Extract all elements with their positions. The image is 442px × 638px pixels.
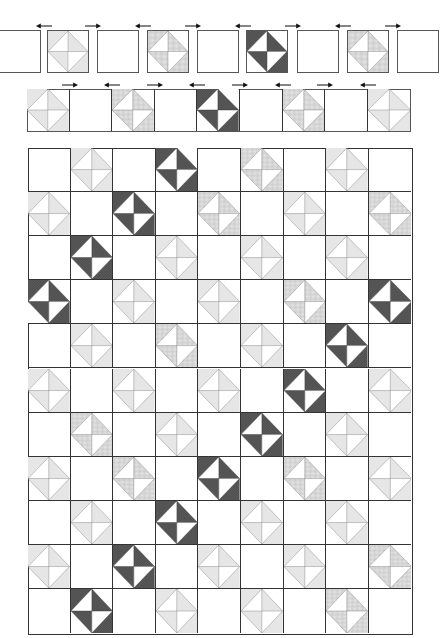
grid-cell-light-star-block <box>28 369 71 413</box>
row2-empty-block <box>70 89 113 131</box>
grid-cell-empty-block <box>369 589 412 633</box>
grid-cell-empty-block <box>326 369 369 413</box>
row2-dark-hourglass-block <box>197 89 240 131</box>
grid-cell-empty-block <box>369 413 412 457</box>
grid-cell-empty-block <box>198 236 241 280</box>
grid-cell-light-star-block <box>241 501 284 545</box>
grid-cell-empty-block <box>284 324 327 368</box>
row1-dark-hourglass-block <box>246 30 288 73</box>
grid-cell-empty-block <box>241 369 284 413</box>
grid-cell-light-star-block <box>71 501 114 545</box>
row1-light-star-block <box>47 30 89 73</box>
arrow-right-icon <box>385 23 401 29</box>
grid-cell-empty-block <box>369 501 412 545</box>
grid-cell-light-star-block <box>241 236 284 280</box>
arrow-right-icon <box>285 23 301 29</box>
arrow-left-icon <box>135 23 151 29</box>
grid-cell-dark-hourglass-block <box>71 236 114 280</box>
grid-cell-empty-block <box>28 236 71 280</box>
grid-cell-empty-block <box>113 148 156 192</box>
grid-cell-empty-block <box>198 413 241 457</box>
grid-cell-dark-hourglass-block <box>198 457 241 501</box>
grid-cell-dark-hourglass-block <box>284 369 327 413</box>
row2-light-star-block <box>27 89 70 131</box>
arrow-right-icon <box>147 82 163 88</box>
grid-cell-light-star-block <box>156 413 199 457</box>
arrow-right-icon <box>85 23 101 29</box>
grid-cell-light-star-block <box>241 324 284 368</box>
grid-cell-empty-block <box>28 148 71 192</box>
grid-cell-empty-block <box>326 192 369 236</box>
grid-cell-empty-block <box>71 369 114 413</box>
arrow-left-icon <box>189 82 205 88</box>
grid-cell-empty-block <box>241 192 284 236</box>
row2-empty-block <box>155 89 198 131</box>
grid-cell-empty-block <box>198 501 241 545</box>
grid-cell-empty-block <box>156 545 199 589</box>
grid-cell-dark-hourglass-block <box>241 413 284 457</box>
grid-cell-empty-block <box>241 457 284 501</box>
arrow-right-icon <box>232 82 248 88</box>
grid-cell-empty-block <box>156 369 199 413</box>
grid-cell-empty-block <box>156 457 199 501</box>
grid-cell-empty-block <box>284 413 327 457</box>
grid-cell-check-star-block <box>326 589 369 633</box>
grid-cell-light-star-block <box>326 148 369 192</box>
grid-cell-light-star-block <box>28 457 71 501</box>
row1-check-star-block <box>147 30 189 73</box>
grid-cell-light-star-block <box>284 545 327 589</box>
grid-cell-light-star-block <box>369 369 412 413</box>
grid-cell-empty-block <box>326 457 369 501</box>
grid-cell-check-star-block <box>284 280 327 324</box>
grid-cell-empty-block <box>156 192 199 236</box>
grid-cell-dark-hourglass-block <box>156 148 199 192</box>
grid-cell-empty-block <box>369 324 412 368</box>
diagram-title: Quilt block layout diagram <box>0 0 1 1</box>
grid-cell-empty-block <box>198 148 241 192</box>
arrow-left-icon <box>36 23 52 29</box>
arrow-left-icon <box>104 82 120 88</box>
row1-empty-block <box>297 30 339 73</box>
grid-cell-empty-block <box>284 589 327 633</box>
row2-empty-block <box>325 89 368 131</box>
grid-cell-empty-block <box>71 192 114 236</box>
grid-cell-empty-block <box>28 324 71 368</box>
grid-cell-empty-block <box>113 236 156 280</box>
grid-cell-dark-hourglass-block <box>156 501 199 545</box>
grid-cell-check-star-block <box>284 457 327 501</box>
grid-cell-empty-block <box>113 324 156 368</box>
grid-cell-dark-hourglass-block <box>71 589 114 633</box>
grid-cell-check-star-block <box>369 192 412 236</box>
arrow-right-icon <box>317 82 333 88</box>
grid-cell-check-star-block <box>156 324 199 368</box>
grid-cell-empty-block <box>326 280 369 324</box>
arrow-left-icon <box>235 23 251 29</box>
row2-empty-block <box>240 89 283 131</box>
grid-cell-empty-block <box>198 324 241 368</box>
grid-cell-light-star-block <box>71 148 114 192</box>
grid-cell-empty-block <box>369 148 412 192</box>
grid-cell-empty-block <box>326 545 369 589</box>
grid-cell-light-star-block <box>156 236 199 280</box>
grid-cell-light-star-block <box>284 192 327 236</box>
grid-cell-empty-block <box>113 501 156 545</box>
grid-cell-empty-block <box>198 589 241 633</box>
row2-check-star-block <box>283 89 326 131</box>
grid-cell-light-star-block <box>241 589 284 633</box>
grid-cell-dark-hourglass-block <box>369 280 412 324</box>
grid-cell-empty-block <box>284 148 327 192</box>
grid-cell-empty-block <box>284 236 327 280</box>
grid-cell-empty-block <box>284 501 327 545</box>
row2-check-star-block <box>112 89 155 131</box>
grid-cell-empty-block <box>369 236 412 280</box>
grid-cell-light-star-block <box>326 413 369 457</box>
grid-cell-light-star-block <box>113 369 156 413</box>
arrow-left-icon <box>275 82 291 88</box>
grid-cell-check-star-block <box>71 413 114 457</box>
grid-cell-light-star-block <box>326 501 369 545</box>
row2-light-star-block <box>368 89 411 131</box>
grid-cell-empty-block <box>113 413 156 457</box>
grid-cell-dark-hourglass-block <box>28 280 71 324</box>
row1-empty-block <box>397 30 439 73</box>
grid-cell-check-star-block <box>369 545 412 589</box>
